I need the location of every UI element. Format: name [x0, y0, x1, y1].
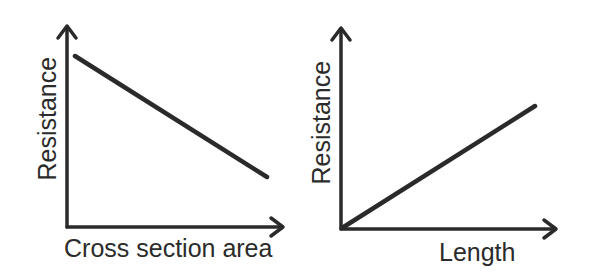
left-y-axis-label: Resistance	[35, 61, 60, 181]
right-chart	[332, 28, 556, 238]
right-data-line	[342, 106, 535, 228]
left-data-line	[75, 56, 267, 177]
left-chart	[58, 26, 283, 236]
right-y-axis-label: Resistance	[309, 65, 334, 185]
right-x-axis-label: Length	[439, 240, 515, 265]
left-x-axis-label: Cross section area	[64, 236, 272, 261]
